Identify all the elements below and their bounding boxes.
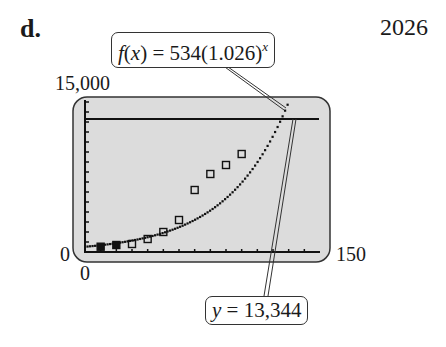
function-callout: f(x) = 534(1.026)x (111, 32, 275, 68)
y-max-label: 15,000 (55, 72, 110, 95)
graph-screen (73, 97, 330, 262)
x-max-label: 150 (336, 243, 366, 266)
intersection-callout: y = 13,344 (205, 296, 308, 325)
x-min-label: 0 (80, 262, 90, 285)
y-min-label: 0 (60, 243, 70, 266)
